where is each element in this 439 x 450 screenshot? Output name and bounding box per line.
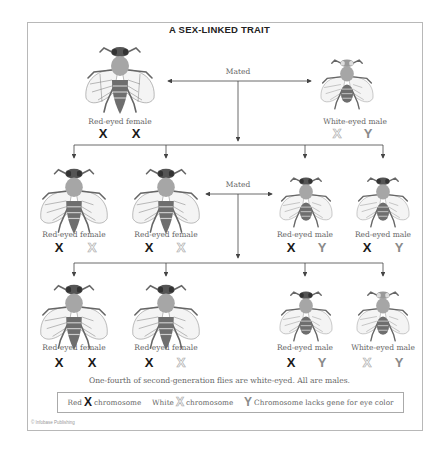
chromosome-y: Y: [315, 356, 329, 369]
chromosome-x-red: X: [284, 356, 298, 369]
chromosome-y: Y: [361, 127, 375, 140]
parent-female-label: Red-eyed female: [65, 117, 175, 126]
fly-icon-red-eyed-male: [351, 172, 415, 230]
legend-white-suffix: chromosome: [186, 398, 233, 407]
chromosome-x-white: X: [330, 127, 344, 140]
legend-y-text: Chromosome lacks gene for eye color: [254, 398, 393, 407]
fly-icon-red-eyed-female: [33, 278, 115, 352]
chromosome-x-red: X: [52, 241, 66, 254]
legend-box: Red X chromosome White X chromosome Y Ch…: [57, 392, 404, 413]
chromosome-y: Y: [392, 356, 406, 369]
fly-icon-red-eyed-female: [125, 162, 207, 236]
result-caption: One-fourth of second-generation flies ar…: [0, 376, 439, 385]
parents-mated-label: Mated: [208, 67, 268, 76]
gen1-fly-2-label: Red-eyed female: [111, 230, 221, 239]
chromosome-x-red: X: [284, 241, 298, 254]
legend-y: Y Chromosome lacks gene for eye color: [244, 396, 393, 409]
chromosome-x-white: X: [174, 241, 188, 254]
chromosome-x-red: X: [142, 356, 156, 369]
legend-red-prefix: Red: [67, 398, 81, 407]
legend-white-x: White X chromosome: [152, 396, 233, 409]
chromosome-y: Y: [315, 241, 329, 254]
fly-icon-red-eyed-female: [78, 40, 162, 116]
chromosome-x-white: X: [85, 241, 99, 254]
chromosome-y: Y: [392, 241, 406, 254]
copyright-notice: © Infobase Publishing: [31, 420, 75, 425]
fly-icon-red-eyed-male: [274, 172, 338, 230]
gen2-fly-4-label: White-eyed male: [328, 343, 438, 352]
legend-white-prefix: White: [152, 398, 174, 407]
parent-male-label: White-eyed male: [300, 117, 410, 126]
legend-red-x: Red X chromosome: [67, 396, 141, 409]
chromosome-x-white: X: [174, 356, 188, 369]
fly-icon-red-eyed-female: [33, 162, 115, 236]
chromosome-x-red: X: [52, 356, 66, 369]
chromosome-x-red-icon: X: [84, 396, 92, 409]
gen2-fly-2-label: Red-eyed female: [111, 343, 221, 352]
first-gen-mated-label: Mated: [208, 180, 268, 189]
chromosome-x-white: X: [360, 356, 374, 369]
chromosome-x-white-icon: X: [176, 396, 184, 409]
gen1-fly-4-label: Red-eyed male: [328, 230, 438, 239]
fly-icon-red-eyed-male: [274, 286, 338, 344]
chromosome-x-red: X: [85, 356, 99, 369]
fly-icon-red-eyed-female: [125, 278, 207, 352]
fly-icon-white-eyed-male: [351, 286, 415, 344]
chromosome-x-red: X: [360, 241, 374, 254]
chromosome-x-red: X: [129, 127, 143, 140]
chromosome-y-icon: Y: [244, 396, 252, 409]
fly-icon-white-eyed-male: [315, 54, 379, 112]
legend-red-suffix: chromosome: [94, 398, 141, 407]
chromosome-x-red: X: [96, 127, 110, 140]
chromosome-x-red: X: [142, 241, 156, 254]
